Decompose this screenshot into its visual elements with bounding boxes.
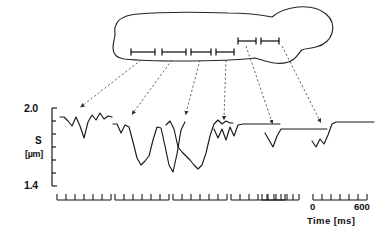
segment-markers [131,38,279,56]
pointer-arrow-3 [186,60,200,113]
y-axis-ticks [52,121,56,173]
time-scalebar-2 [115,194,169,200]
time-scalebar-6 [313,194,367,200]
y-axis-min-label: 1.4 [24,180,38,191]
time-axis-max-label: 600 [354,202,370,212]
time-scalebar-3 [173,194,227,200]
pointer-arrow-2 [133,60,172,113]
time-axis-zero-label: 0 [310,202,315,212]
time-scalebars [57,194,367,200]
segment-marker-2 [162,49,186,56]
pointer-arrow-1 [82,60,141,106]
time-scalebar-5 [262,194,299,200]
pointer-arrow-4 [224,60,226,118]
figure-canvas: 2.0 1.4 S [µm] 0 600 Time [ms] [0,0,388,232]
time-scalebar-4 [231,194,285,200]
segment-marker-4 [216,49,234,56]
trace-segment-6 [312,122,374,147]
y-axis [52,108,57,186]
pointer-arrow-6 [282,46,320,121]
y-axis-symbol-label: S [35,136,42,146]
pointer-arrow-5 [246,46,272,122]
time-axis-caption: Time [ms] [307,216,355,226]
trace-segment-3 [166,120,233,169]
y-axis-unit-label: [µm] [25,150,43,159]
time-scalebar-1 [57,194,111,200]
figure-vector-layer [0,0,388,232]
segment-marker-3 [191,49,211,56]
trace-segment-1 [60,113,112,138]
muscle-fiber-outline [113,7,333,64]
trace-group [60,113,374,172]
trace-segment-4 [214,124,280,140]
segment-marker-1 [131,49,155,56]
y-axis-max-label: 2.0 [24,103,38,114]
segment-marker-6 [261,38,279,45]
segment-marker-5 [238,38,256,45]
